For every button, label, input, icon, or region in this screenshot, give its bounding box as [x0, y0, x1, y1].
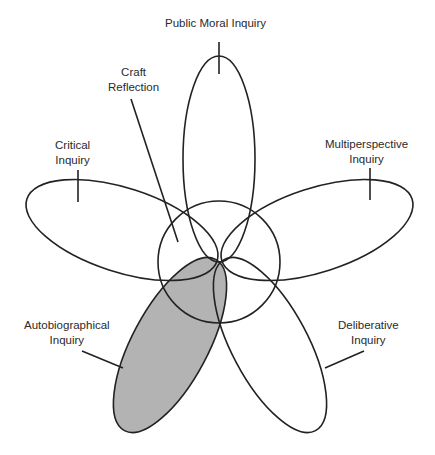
- label-multiperspective: Multiperspective Inquiry: [325, 137, 408, 167]
- flower-diagram: [0, 0, 435, 455]
- leader-craft-reflection: [131, 99, 178, 242]
- petal-autobiographical: [91, 242, 249, 449]
- label-critical: Critical Inquiry: [55, 138, 90, 168]
- label-public-moral: Public Moral Inquiry: [165, 16, 266, 31]
- label-craft-reflection: Craft Reflection: [108, 65, 159, 95]
- label-deliberative: Deliberative Inquiry: [338, 318, 399, 348]
- tick-deliberative: [325, 351, 364, 368]
- petal-deliberative: [191, 242, 349, 449]
- tick-autobiographical: [82, 351, 123, 368]
- petal-public-moral: [183, 56, 255, 262]
- label-autobiographical: Autobiographical Inquiry: [24, 318, 110, 348]
- petal-multiperspective: [209, 159, 425, 301]
